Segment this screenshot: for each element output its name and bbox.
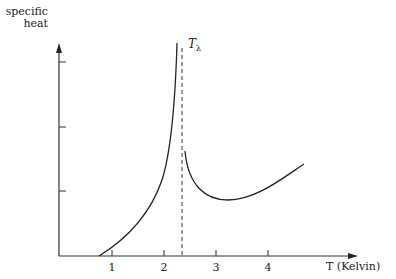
x-tick-label-2: 2 (158, 261, 170, 274)
y-axis-label: specific heat (0, 6, 48, 30)
x-tick-label-4: 4 (262, 261, 274, 274)
t-lambda-subscript: λ (196, 44, 201, 53)
t-lambda-label: Tλ (188, 38, 201, 55)
t-lambda-symbol: T (188, 37, 196, 51)
x-tick-label-3: 3 (210, 261, 222, 274)
x-axis-label: T (Kelvin) (326, 261, 380, 273)
x-ticks (112, 250, 268, 256)
curve-above-t-lambda (185, 151, 304, 200)
x-tick-label-1: 1 (106, 261, 118, 274)
y-axis-arrow-icon (56, 43, 62, 53)
curve-below-t-lambda (99, 43, 177, 256)
x-axis-arrow-icon (348, 253, 358, 259)
y-ticks (59, 62, 66, 191)
y-axis-label-line2: heat (0, 18, 48, 30)
